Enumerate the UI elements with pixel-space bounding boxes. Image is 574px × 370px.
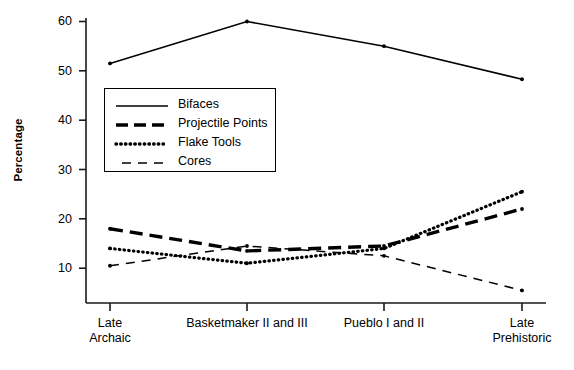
legend-label-cores: Cores	[178, 154, 211, 168]
x-category-label-2: Pueblo I and II	[319, 316, 449, 331]
legend-item-cores: Cores	[105, 151, 275, 170]
x-category-line: Late	[470, 316, 574, 331]
series-projectile-points	[108, 207, 524, 253]
data-point	[108, 264, 112, 268]
data-point	[245, 20, 249, 24]
series-flake-tools	[108, 190, 524, 265]
data-point	[245, 261, 249, 265]
data-point	[382, 247, 386, 251]
y-axis-ticks	[79, 22, 86, 269]
solid-line-key	[114, 98, 170, 110]
data-point	[520, 289, 524, 293]
x-axis-ticks	[110, 303, 522, 311]
data-point	[108, 227, 112, 231]
legend-label-flake-tools: Flake Tools	[178, 135, 241, 149]
legend-label-bifaces: Bifaces	[178, 97, 219, 111]
legend-item-projectile-points: Projectile Points	[105, 113, 275, 132]
x-category-label-3: LatePrehistoric	[470, 316, 574, 346]
data-point	[108, 247, 112, 251]
legend-label-projectile-points: Projectile Points	[178, 116, 268, 130]
data-point	[108, 62, 112, 66]
dotted-line-key	[114, 136, 170, 148]
legend-item-flake-tools: Flake Tools	[105, 132, 275, 151]
legend-item-bifaces: Bifaces	[105, 94, 275, 113]
x-category-line: Basketmaker II and III	[172, 316, 322, 331]
series-cores	[108, 244, 524, 292]
thick-dashed-line-key	[114, 117, 170, 129]
data-point	[382, 254, 386, 258]
data-point	[520, 77, 524, 81]
x-category-line: Pueblo I and II	[319, 316, 449, 331]
data-point	[245, 249, 249, 253]
x-category-label-0: LateArchaic	[60, 316, 160, 346]
data-point	[520, 190, 524, 194]
plot-area	[0, 0, 574, 370]
data-point	[520, 207, 524, 211]
x-category-line: Late	[60, 316, 160, 331]
thin-dashed-line-key	[114, 155, 170, 167]
data-point	[245, 244, 249, 248]
legend: Bifaces Projectile Points Flake Tools Co…	[104, 88, 276, 172]
x-category-line: Prehistoric	[470, 331, 574, 346]
data-point	[382, 44, 386, 48]
x-category-line: Archaic	[60, 331, 160, 346]
chart-figure: Percentage 60 50 40 30 20 10	[0, 0, 574, 370]
x-category-label-1: Basketmaker II and III	[172, 316, 322, 331]
series-bifaces	[108, 20, 524, 82]
